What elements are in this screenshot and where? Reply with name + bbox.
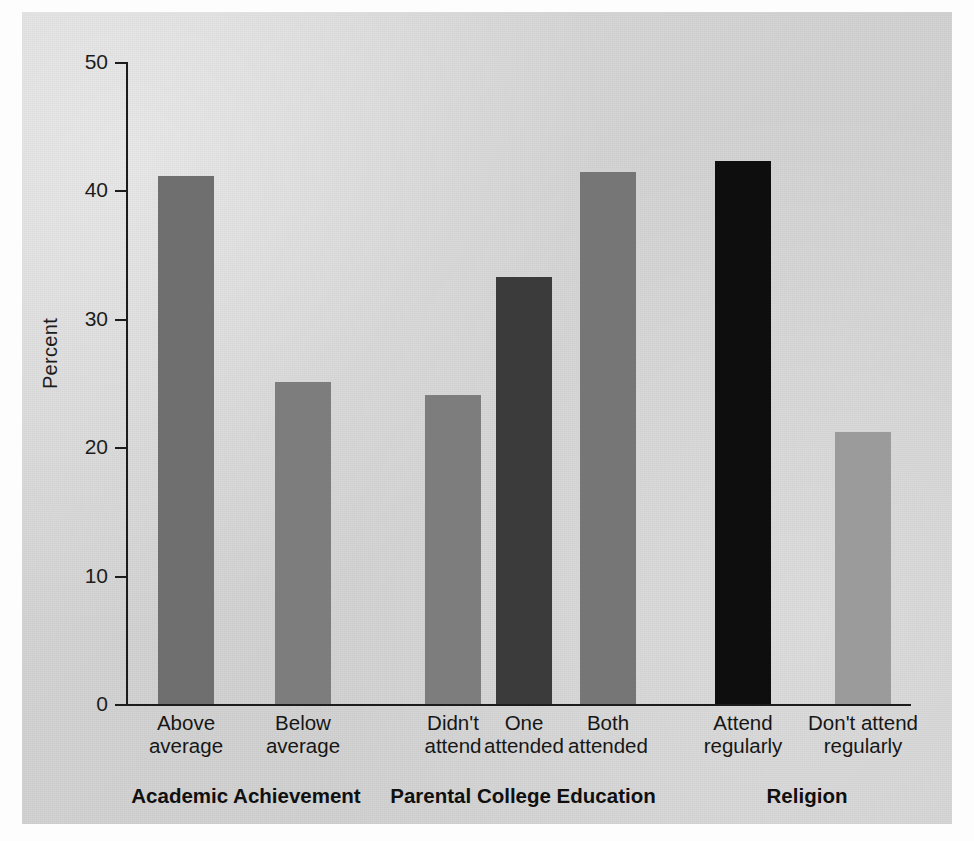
bar-label-line1: One: [505, 711, 544, 734]
bar-label-line1: Both: [587, 711, 629, 734]
bar-label-below-average: Below average: [243, 712, 363, 758]
bar-below-average: [275, 382, 331, 705]
bar-didnt-attend: [425, 395, 481, 705]
plot-area: 50 40 30 20 10 0 Percent: [22, 12, 952, 824]
y-tick-label-40: 40: [56, 179, 108, 200]
group-label-parental-college: Parental College Education: [378, 784, 668, 808]
y-tick-label-0: 0: [56, 693, 108, 714]
bar-one-attended: [496, 277, 552, 705]
y-tick-40: [115, 190, 126, 192]
bar-label-line1: Above: [157, 711, 215, 734]
bar-label-line1: Below: [275, 711, 331, 734]
bar-label-line2: average: [243, 735, 363, 758]
y-tick-10: [115, 576, 126, 578]
y-axis-title: Percent: [39, 274, 62, 434]
bar-label-line2: regularly: [683, 735, 803, 758]
chart-plate: 50 40 30 20 10 0 Percent: [22, 12, 952, 824]
bar-attend-regularly: [715, 161, 771, 705]
bar-both-attended: [580, 172, 636, 705]
y-tick-50: [115, 62, 126, 64]
bar-label-line1: Attend: [713, 711, 772, 734]
y-tick-label-30: 30: [56, 308, 108, 329]
group-label-religion: Religion: [682, 784, 932, 808]
bar-label-line2: average: [126, 735, 246, 758]
bar-dont-attend-regularly: [835, 432, 891, 705]
figure-root: 50 40 30 20 10 0 Percent: [0, 0, 974, 841]
bar-label-dont-attend-regularly: Don't attend regularly: [793, 712, 933, 758]
bar-label-line2: regularly: [793, 735, 933, 758]
y-tick-20: [115, 447, 126, 449]
bar-label-both-attended: Both attended: [548, 712, 668, 758]
y-tick-label-10: 10: [56, 565, 108, 586]
y-tick-label-50: 50: [56, 51, 108, 72]
y-tick-0: [115, 704, 126, 706]
y-tick-30: [115, 319, 126, 321]
group-label-academic-achievement: Academic Achievement: [126, 784, 366, 808]
y-tick-label-20: 20: [56, 436, 108, 457]
bar-above-average: [158, 176, 214, 705]
x-axis-line: [126, 704, 911, 706]
bar-label-above-average: Above average: [126, 712, 246, 758]
bar-label-line2: attended: [548, 735, 668, 758]
bar-label-line1: Don't attend: [808, 711, 918, 734]
bar-label-attend-regularly: Attend regularly: [683, 712, 803, 758]
y-axis-line: [126, 62, 128, 706]
